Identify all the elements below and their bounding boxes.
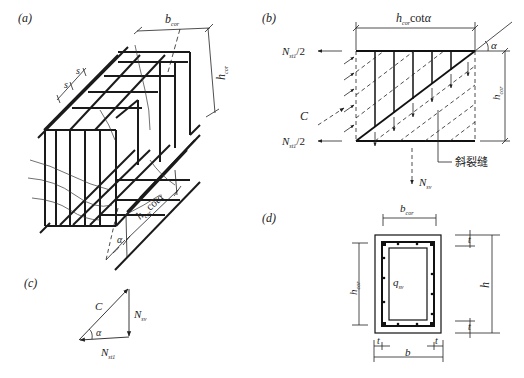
panel-a: (a) bcor hcor s s [18,11,229,270]
panel-b-label: (b) [262,11,276,25]
label-n-sv-c: Nsv [133,308,147,322]
label-alpha-c: α [96,327,102,338]
label-h-cor-b: hcor [490,86,504,100]
label-s-1: s [64,79,68,90]
label-length: hcorcotα [133,191,167,223]
label-crack: 斜裂缝 [455,155,488,169]
panel-b: (b) hcorcotα [262,11,512,190]
label-h-cor: hcor [214,65,229,80]
panel-a-label: (a) [18,11,32,25]
label-top-dim: hcorcotα [396,11,432,26]
label-h-cor-d: hcor [347,281,361,295]
dim-h-cor [206,28,219,117]
figure-canvas: (a) bcor hcor s s [0,0,524,378]
label-t-bottom: t [468,321,471,332]
label-n-sv-b: Nsv [418,176,432,190]
panel-d-label: (d) [262,211,276,225]
label-b: b [405,346,411,358]
dim-b-cor [134,24,213,72]
force-c [79,289,128,340]
label-t-top: t [468,234,471,245]
label-alpha-b: α [491,39,497,51]
panel-c: (c) C α Nsv Nst1 [24,276,147,360]
rebars [382,242,434,326]
label-c-b: C [300,109,309,123]
outer-section [375,235,441,333]
label-n-st1-top: Nst1/2 [281,45,305,59]
label-b-cor-d: bcor [400,202,414,216]
force-n-st1 [80,337,129,340]
label-c-c: C [95,300,103,312]
dim-top [353,22,478,50]
stirrup [382,242,434,326]
label-b-cor: bcor [165,12,180,27]
dim-spacing [57,68,86,103]
label-alpha-a: α [117,234,123,245]
panel-d: (d) bcor qsv hcor [262,202,500,362]
label-s-2: s [76,65,80,76]
label-h: h [478,282,492,288]
panel-c-label: (c) [24,276,37,290]
label-n-st1-c: Nst1 [100,346,115,360]
label-q-sv: qsv [393,276,404,290]
label-t-left: t [377,335,380,346]
label-n-st1-bottom: Nst1/2 [281,135,305,149]
label-t-right: t [435,335,438,346]
